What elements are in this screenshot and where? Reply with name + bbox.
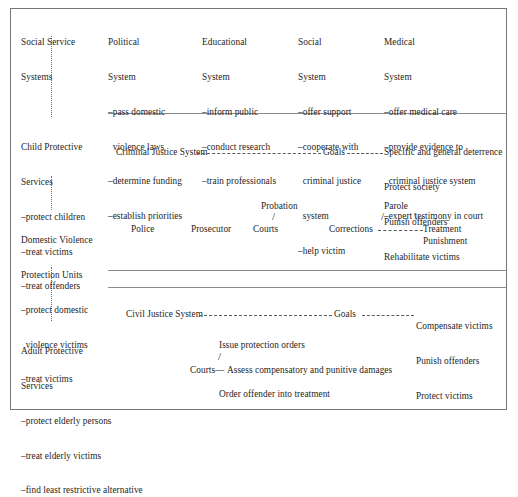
system-item: –conduct research [202,142,276,154]
civil-justice-system-label: Civil Justice System [126,309,203,321]
goal-item: Rehabilitate victims [384,252,502,264]
system-item: –help victim [298,246,361,258]
group-heading-line: Social Service [21,37,75,49]
group-heading-line: Systems [21,72,75,84]
corrections-treatment-dash [378,230,423,231]
system-heading-line: Political [108,37,182,49]
band-divider-3 [108,287,506,288]
group-heading-line: Child Protective [21,142,85,154]
civil-goals-list: Compensate victims Punish offenders Prot… [416,298,493,426]
system-heading-line: Educational [202,37,276,49]
criminal-goals-dash-left [197,153,321,154]
social-service-systems-group: Social Service Systems [21,14,75,107]
system-item: –establish priorities [108,211,182,223]
civil-goals-dash-left [199,315,332,316]
system-heading-line: System [202,72,276,84]
criminal-justice-system-label: Criminal Justice System [116,147,208,159]
agency-treatment: Treatment [423,224,461,236]
system-item: –pass domestic [108,107,182,119]
parole-treatment-connector: / [414,211,417,222]
corrections-parole-connector: / [381,211,384,222]
agency-courts: Courts [253,224,278,236]
agency-punishment: Punishment [423,236,467,248]
group-heading-line: Services [21,177,85,189]
system-item: –train professionals [202,176,276,188]
civil-action-order-treatment: Order offender into treatment [219,389,330,401]
group-item: –protect domestic [21,305,93,317]
group-item: –find least restrictive alternative [21,485,143,497]
group-heading-line: Adult Protective [21,346,143,358]
agency-police: Police [131,224,155,236]
civil-goals-label: Goals [334,309,356,321]
goal-item: Specific and general deterrence [384,147,502,159]
system-item: system [298,211,361,223]
agency-corrections: Corrections [329,224,373,236]
system-heading-line: System [384,72,483,84]
group-heading-line: Protection Units [21,270,93,282]
group-heading-line: Domestic Violence [21,235,93,247]
group-item: –protect elderly persons [21,416,143,428]
system-heading-line: System [298,72,361,84]
system-heading-line: Medical [384,37,483,49]
civil-goals-dash-right [362,315,414,316]
civil-action-damages: Assess compensatory and punitive damages [227,365,392,377]
system-item: –inform public [202,107,276,119]
criminal-goals-label: Goals [323,147,345,159]
agency-prosecutor: Prosecutor [191,224,231,236]
goal-item: Protect victims [416,391,493,403]
group-heading-line: Services [21,381,143,393]
system-item: criminal justice [298,176,361,188]
political-system-block: Political System –pass domestic violence… [108,14,182,246]
group-item: –treat elderly victims [21,451,143,463]
adult-protective-services-group: Adult Protective Services –protect elder… [21,323,143,497]
system-item: –determine funding [108,176,182,188]
civil-courts-label: Courts— [190,365,224,377]
goal-item: Protect society [384,182,502,194]
goal-item: Punish offenders [416,356,493,368]
system-heading-line: System [108,72,182,84]
agency-probation: Probation [261,201,298,213]
probation-courts-connector: / [272,211,275,222]
system-item: –offer medical care [384,107,483,119]
educational-system-block: Educational System –inform public –condu… [202,14,276,211]
agency-parole: Parole [384,201,408,213]
civil-action-protection-orders: Issue protection orders [219,340,305,352]
system-item: –offer support [298,107,361,119]
system-heading-line: Social [298,37,361,49]
criminal-goals-dash-right [347,153,383,154]
courts-actions-connector: / [218,351,221,362]
goal-item: Compensate victims [416,321,493,333]
